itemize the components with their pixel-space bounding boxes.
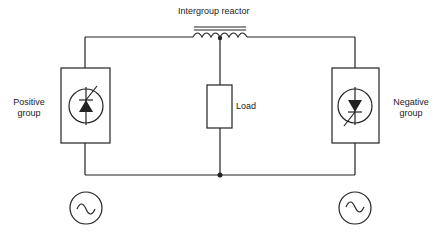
bottom-junction-node (218, 173, 223, 178)
positive-group-label: Positive group (6, 97, 52, 119)
positive-group-label-line1: Positive (6, 97, 52, 108)
negative-group-label-line2: group (386, 108, 436, 119)
load-label: Load (236, 101, 256, 112)
negative-group-label: Negative group (386, 97, 436, 119)
load-resistor (207, 85, 232, 128)
ac-source-left-icon (70, 192, 102, 224)
circuit-diagram (0, 0, 440, 241)
positive-group-label-line2: group (6, 108, 52, 119)
reactor-tap-node (218, 36, 222, 40)
positive-thyristor-triangle (79, 100, 93, 112)
ac-source-right-icon (339, 192, 371, 224)
negative-group-label-line1: Negative (386, 97, 436, 108)
reactor-label: Intergroup reactor (178, 6, 250, 17)
negative-thyristor-triangle (348, 100, 362, 112)
